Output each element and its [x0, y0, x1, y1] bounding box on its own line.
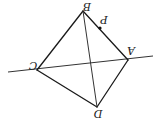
label-d: D: [93, 107, 103, 120]
segment-cd: [37, 70, 97, 107]
label-a: A: [127, 44, 136, 57]
segment-bc: [37, 11, 83, 70]
label-b: B: [83, 0, 92, 13]
geometry-diagram: B P A C D: [0, 0, 159, 125]
label-c: C: [28, 59, 37, 72]
label-p: P: [100, 13, 109, 26]
segment-bd: [83, 11, 97, 107]
segment-da: [97, 60, 128, 107]
